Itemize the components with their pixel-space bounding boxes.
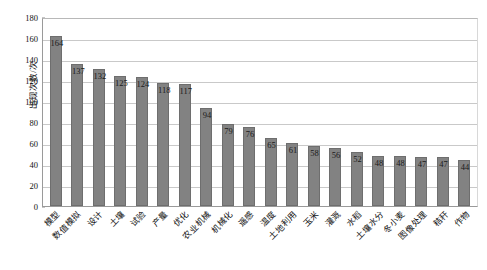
bar: 164	[50, 36, 62, 206]
y-axis-tick-labels: 020406080100120140160180	[0, 0, 38, 270]
bar-value-label: 47	[418, 160, 427, 169]
bar-value-label: 52	[353, 155, 362, 164]
bar-slot: 48	[389, 19, 411, 206]
bar-slot: 52	[346, 19, 368, 206]
x-axis-tick-label: 设计	[85, 209, 105, 229]
bar-slot: 164	[45, 19, 67, 206]
x-axis-tick-label: 秸秆	[431, 209, 451, 229]
bar: 79	[222, 124, 234, 206]
bar-series: 1641371321251241181179479766561585652484…	[43, 19, 477, 206]
bar-value-label: 61	[289, 146, 298, 155]
x-axis-tick-label: 遥感	[236, 209, 256, 229]
y-axis-tick-label: 40	[30, 161, 39, 170]
y-axis-tick-label: 60	[30, 140, 39, 149]
bar: 44	[458, 160, 470, 206]
bar-chart: 出现次数/次 020406080100120140160180 16413713…	[0, 0, 487, 270]
bar: 48	[372, 156, 384, 206]
bar-value-label: 137	[72, 67, 85, 76]
bar-slot: 94	[196, 19, 218, 206]
bar: 47	[437, 157, 449, 206]
bar-slot: 58	[303, 19, 325, 206]
bar-value-label: 132	[93, 72, 106, 81]
x-axis-tick-label: 玉米	[301, 209, 321, 229]
plot-area: 1641371321251241181179479766561585652484…	[42, 18, 478, 207]
y-axis-tick-label: 120	[25, 77, 38, 86]
y-axis-tick-label: 0	[34, 203, 38, 212]
bar: 124	[136, 77, 148, 206]
bar: 117	[179, 84, 191, 206]
bar-value-label: 125	[115, 79, 128, 88]
bar-value-label: 47	[439, 160, 448, 169]
x-axis-tick-label: 灌溉	[323, 209, 343, 229]
bar-slot: 79	[217, 19, 239, 206]
bar: 94	[200, 108, 212, 206]
x-axis-tick-label: 产量	[150, 209, 170, 229]
x-axis-tick-label: 试验	[128, 209, 148, 229]
bar-value-label: 118	[158, 86, 170, 95]
bar-slot: 76	[239, 19, 261, 206]
bar-slot: 117	[174, 19, 196, 206]
bar: 118	[157, 83, 169, 206]
bar-slot: 48	[368, 19, 390, 206]
bar-value-label: 164	[50, 39, 63, 48]
bar-slot: 61	[282, 19, 304, 206]
bar-value-label: 117	[180, 87, 192, 96]
bar-slot: 118	[153, 19, 175, 206]
bar-value-label: 94	[203, 111, 212, 120]
y-axis-tick-label: 100	[25, 98, 38, 107]
bar-value-label: 65	[267, 141, 276, 150]
bar: 65	[265, 138, 277, 206]
bar-value-label: 56	[332, 151, 341, 160]
bar-value-label: 79	[224, 127, 233, 136]
bar-slot: 65	[260, 19, 282, 206]
bar: 58	[308, 146, 320, 206]
bar-value-label: 76	[246, 130, 255, 139]
y-axis-tick-label: 160	[25, 35, 38, 44]
bar: 47	[415, 157, 427, 206]
bar-slot: 56	[325, 19, 347, 206]
bar: 125	[114, 76, 126, 206]
bar-slot: 132	[88, 19, 110, 206]
bar: 48	[394, 156, 406, 206]
bar-slot: 124	[131, 19, 153, 206]
bar-value-label: 48	[396, 159, 405, 168]
bar: 56	[329, 148, 341, 206]
bar: 76	[243, 127, 255, 206]
y-axis-tick-label: 140	[25, 56, 38, 65]
y-axis-tick-label: 180	[25, 14, 38, 23]
bar-slot: 47	[432, 19, 454, 206]
bar-value-label: 58	[310, 149, 319, 158]
y-axis-tick-label: 20	[30, 182, 39, 191]
bar-slot: 137	[67, 19, 89, 206]
bar-slot: 125	[110, 19, 132, 206]
bar-value-label: 48	[375, 159, 384, 168]
bar: 137	[71, 64, 83, 206]
x-axis-category-labels: 模型数值模拟设计土壤试验产量优化农业机械机械化遥感温度土地利用玉米灌溉水稻土壤水…	[42, 209, 478, 270]
bar-slot: 47	[411, 19, 433, 206]
y-axis-tick-label: 80	[30, 119, 39, 128]
bar-slot: 44	[454, 19, 476, 206]
bar: 52	[351, 152, 363, 206]
x-axis-tick-label: 土壤	[107, 209, 127, 229]
x-axis-tick-label: 机械化	[209, 209, 235, 235]
x-axis-tick-label: 作物	[452, 209, 472, 229]
bar-value-label: 44	[461, 163, 470, 172]
bar: 61	[286, 143, 298, 206]
bar: 132	[93, 69, 105, 206]
bar-value-label: 124	[136, 80, 149, 89]
